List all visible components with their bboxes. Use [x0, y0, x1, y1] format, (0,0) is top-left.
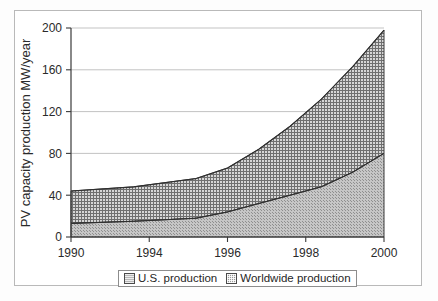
area-chart: 200 160 120 80 40 0 1990 1994 1996 1998 … — [0, 0, 438, 301]
chart-page: 200 160 120 80 40 0 1990 1994 1996 1998 … — [0, 0, 438, 301]
chart-legend: U.S. production Worldwide production — [118, 270, 357, 287]
x-tick-label-1994: 1994 — [136, 246, 163, 260]
legend-label-us: U.S. production — [138, 273, 217, 285]
y-tick-label-40: 40 — [49, 189, 63, 203]
y-tick-label-0: 0 — [55, 230, 62, 244]
y-tick-label-160: 160 — [42, 63, 62, 77]
x-tick-marks — [71, 237, 384, 242]
legend-swatch-us-icon — [124, 273, 135, 284]
legend-label-worldwide: Worldwide production — [240, 273, 350, 285]
y-tick-marks — [66, 28, 71, 237]
legend-entry-worldwide: Worldwide production — [226, 273, 350, 285]
x-tick-label-1998: 1998 — [292, 246, 319, 260]
legend-entry-us: U.S. production — [124, 273, 217, 285]
y-tick-label-120: 120 — [42, 105, 62, 119]
y-tick-label-80: 80 — [49, 147, 63, 161]
x-tick-label-2000: 2000 — [371, 246, 398, 260]
y-tick-label-200: 200 — [42, 21, 62, 35]
legend-swatch-worldwide-icon — [226, 273, 237, 284]
x-tick-label-1996: 1996 — [214, 246, 241, 260]
x-tick-label-1990: 1990 — [58, 246, 85, 260]
y-axis-label: PV capacity production MW/year — [18, 38, 33, 227]
